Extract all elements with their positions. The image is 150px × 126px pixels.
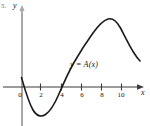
curve-label: y = A(x) (70, 60, 98, 69)
figure-container: 5. 0 2 4 6 8 10 y x y = A(x) (0, 0, 150, 126)
tick-label-10: 10 (115, 91, 127, 99)
x-axis-label: x (141, 89, 145, 97)
tick-label-2: 2 (35, 91, 47, 99)
y-axis-label: y (13, 2, 17, 10)
tick-label-6: 6 (76, 91, 88, 99)
tick-label-0: 0 (14, 91, 26, 99)
y-axis (19, 5, 24, 126)
tick-label-4: 4 (56, 91, 68, 99)
tick-label-8: 8 (96, 91, 108, 99)
